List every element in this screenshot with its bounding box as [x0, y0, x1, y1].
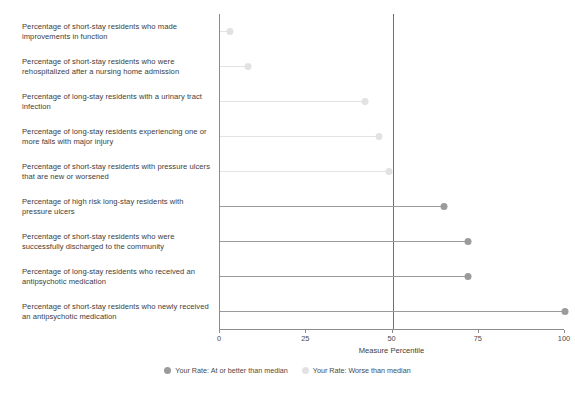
lollipop-stem: [220, 171, 389, 172]
plot-panel: [219, 14, 564, 329]
x-tick-mark: [478, 330, 479, 333]
lollipop-stem: [220, 206, 444, 207]
y-axis-label: Percentage of long-stay residents who re…: [22, 266, 214, 286]
lollipop-stem: [220, 276, 468, 277]
legend-dot-icon: [302, 367, 309, 374]
y-axis-labels: Percentage of short-stay residents who m…: [22, 14, 214, 329]
data-point[interactable]: [386, 168, 393, 175]
data-point[interactable]: [227, 28, 234, 35]
y-axis-label: Percentage of short-stay residents who n…: [22, 301, 214, 321]
data-point[interactable]: [465, 273, 472, 280]
y-axis-label: Percentage of short-stay residents who w…: [22, 231, 214, 251]
x-tick-mark: [305, 330, 306, 333]
data-point[interactable]: [244, 63, 251, 70]
legend-dot-icon: [164, 367, 171, 374]
x-tick-label: 75: [474, 334, 482, 343]
lollipop-chart: Percentage of short-stay residents who m…: [0, 0, 575, 402]
lollipop-stem: [220, 311, 565, 312]
y-axis-label: Percentage of short-stay residents with …: [22, 161, 214, 181]
lollipop-stem: [220, 136, 379, 137]
data-point[interactable]: [441, 203, 448, 210]
x-tick-mark: [564, 330, 565, 333]
y-axis-label: Percentage of long-stay residents experi…: [22, 126, 214, 146]
legend-label: Your Rate: Worse than median: [313, 366, 411, 375]
x-tick-mark: [219, 330, 220, 333]
data-point[interactable]: [562, 308, 569, 315]
y-axis-label: Percentage of short-stay residents who m…: [22, 21, 214, 41]
x-axis-title: Measure Percentile: [219, 346, 564, 355]
x-tick-label: 0: [217, 334, 221, 343]
median-reference-line: [393, 14, 394, 329]
legend-label: Your Rate: At or better than median: [175, 366, 287, 375]
y-axis-label: Percentage of high risk long-stay reside…: [22, 196, 214, 216]
legend-item[interactable]: Your Rate: Worse than median: [302, 366, 411, 375]
data-point[interactable]: [375, 133, 382, 140]
data-point[interactable]: [361, 98, 368, 105]
y-axis-label: Percentage of short-stay residents who w…: [22, 56, 214, 76]
x-tick-mark: [392, 330, 393, 333]
lollipop-stem: [220, 241, 468, 242]
x-axis-ticks: 0255075100: [219, 330, 564, 346]
x-tick-label: 50: [387, 334, 395, 343]
lollipop-stem: [220, 101, 365, 102]
chart-legend: Your Rate: At or better than medianYour …: [0, 366, 575, 375]
legend-item[interactable]: Your Rate: At or better than median: [164, 366, 287, 375]
y-axis-label: Percentage of long-stay residents with a…: [22, 91, 214, 111]
x-tick-label: 100: [558, 334, 570, 343]
x-tick-label: 25: [301, 334, 309, 343]
data-point[interactable]: [465, 238, 472, 245]
